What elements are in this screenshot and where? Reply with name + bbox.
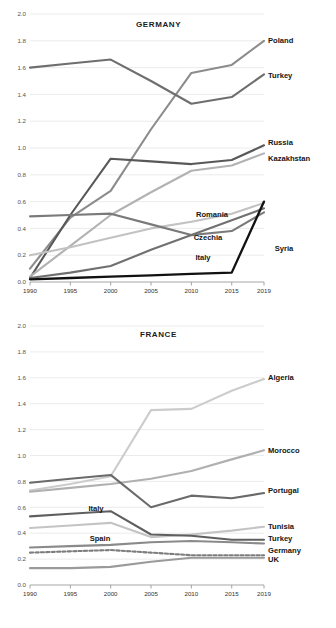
y-tick-label: 1.4 (17, 400, 26, 407)
x-tick-label: 1995 (63, 287, 77, 294)
series-label-italy: Italy (195, 253, 211, 262)
series-line-romania (30, 203, 264, 255)
series-label-turkey: Turkey (268, 71, 293, 80)
chart-germany-title: GERMANY (136, 20, 181, 29)
series-line-tunisia (30, 523, 264, 537)
y-tick-label: 0.8 (17, 478, 26, 485)
chart-france: FRANCE 0.00.20.40.60.81.01.21.41.61.82.0… (0, 318, 336, 618)
series-label-spain: Spain (90, 534, 111, 543)
bottom-blank-band (0, 600, 336, 628)
y-tick-label: 2.0 (17, 10, 26, 17)
y-tick-label: 0.4 (17, 529, 26, 536)
y-tick-label: 0.4 (17, 225, 26, 232)
x-tick-label: 1990 (23, 287, 37, 294)
x-tick-label: 2010 (184, 287, 198, 294)
series-line-poland (30, 41, 264, 269)
x-tick-label: 2010 (184, 590, 198, 597)
series-label-kazakhstan: Kazakhstan (268, 154, 311, 163)
x-tick-label: 2005 (144, 590, 158, 597)
series-label-germany: Germany (268, 546, 302, 555)
series-label-algeria: Algeria (268, 373, 295, 382)
y-tick-label: 1.4 (17, 91, 26, 98)
chart-germany: GERMANY 0.00.20.40.60.81.01.21.41.61.82.… (0, 6, 336, 311)
y-tick-label: 1.0 (17, 144, 26, 151)
series-line-germany (30, 550, 264, 555)
x-tick-label: 2000 (104, 287, 118, 294)
y-tick-label: 0.0 (17, 581, 26, 588)
chart-france-title: FRANCE (140, 330, 177, 339)
series-label-romania: Romania (196, 210, 229, 219)
series-label-poland: Poland (268, 36, 294, 45)
series-label-tunisia: Tunisia (268, 522, 295, 531)
x-tick-label: 2015 (225, 590, 239, 597)
x-tick-label: 2005 (144, 287, 158, 294)
series-label-russia: Russia (268, 138, 294, 147)
y-tick-label: 1.6 (17, 374, 26, 381)
y-tick-label: 1.2 (17, 426, 26, 433)
figure-root: GERMANY 0.00.20.40.60.81.01.21.41.61.82.… (0, 0, 336, 628)
chart-germany-plot: 0.00.20.40.60.81.01.21.41.61.82.01990199… (0, 6, 336, 311)
x-tick-label: 1995 (63, 590, 77, 597)
y-tick-label: 1.8 (17, 37, 26, 44)
x-tick-label: 2000 (104, 590, 118, 597)
series-label-italy: Italy (88, 504, 104, 513)
y-tick-label: 0.6 (17, 504, 26, 511)
y-tick-label: 1.2 (17, 117, 26, 124)
y-tick-label: 0.2 (17, 555, 26, 562)
y-tick-label: 0.8 (17, 171, 26, 178)
x-tick-label: 2019 (257, 590, 271, 597)
series-line-algeria (30, 379, 264, 490)
y-tick-label: 1.6 (17, 64, 26, 71)
series-label-turkey: Turkey (268, 534, 293, 543)
y-tick-label: 0.2 (17, 251, 26, 258)
chart-france-plot: 0.00.20.40.60.81.01.21.41.61.82.01990199… (0, 318, 336, 618)
x-tick-label: 2019 (257, 287, 271, 294)
series-label-portugal: Portugal (268, 486, 299, 495)
series-line-italy (30, 208, 264, 278)
y-tick-label: 1.8 (17, 348, 26, 355)
series-line-uk (30, 541, 264, 547)
series-label-uk: UK (268, 555, 279, 564)
series-label-morocco: Morocco (268, 446, 300, 455)
series-label-czechia: Czechia (194, 233, 223, 242)
x-tick-label: 2015 (225, 287, 239, 294)
y-tick-label: 0.6 (17, 198, 26, 205)
y-tick-label: 0.0 (17, 278, 26, 285)
series-label-syria: Syria (275, 244, 294, 253)
y-tick-label: 1.0 (17, 452, 26, 459)
x-tick-label: 1990 (23, 590, 37, 597)
y-tick-label: 2.0 (17, 322, 26, 329)
